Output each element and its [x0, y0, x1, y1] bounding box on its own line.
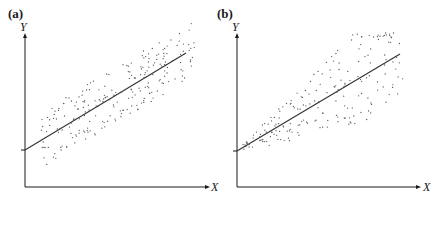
data-point — [248, 146, 249, 147]
data-point — [373, 36, 374, 37]
data-point — [168, 81, 169, 82]
data-point — [127, 109, 128, 110]
data-point — [246, 141, 247, 142]
data-point — [49, 125, 50, 126]
data-point — [170, 39, 171, 40]
data-point — [182, 75, 183, 76]
data-point — [298, 124, 299, 125]
data-point — [391, 37, 392, 38]
data-point — [152, 74, 153, 75]
data-point — [389, 94, 390, 95]
data-point — [270, 117, 271, 118]
data-point — [143, 100, 144, 101]
data-point — [377, 89, 378, 90]
data-point — [278, 108, 279, 109]
data-point — [360, 79, 361, 80]
data-point — [58, 110, 59, 111]
data-point — [326, 92, 327, 93]
data-point — [62, 129, 63, 130]
data-point — [266, 131, 267, 132]
data-point — [326, 62, 327, 63]
data-point — [350, 121, 351, 122]
data-point — [192, 57, 193, 58]
data-point — [349, 117, 350, 118]
data-point — [318, 101, 319, 102]
data-point — [142, 67, 143, 68]
data-point — [82, 90, 83, 91]
data-point — [148, 58, 149, 59]
data-point — [335, 85, 336, 86]
data-point — [73, 119, 74, 120]
data-point — [105, 97, 106, 98]
data-point — [320, 84, 321, 85]
data-point — [291, 100, 292, 101]
data-point — [336, 92, 337, 93]
data-point — [371, 104, 372, 105]
data-point — [90, 82, 91, 83]
data-point — [54, 114, 55, 115]
data-point — [316, 90, 317, 91]
x-axis-label: X — [211, 180, 218, 195]
data-point — [334, 86, 335, 87]
data-point — [377, 36, 378, 37]
data-point — [283, 140, 284, 141]
data-point — [106, 73, 107, 74]
data-point — [344, 83, 345, 84]
data-point — [300, 109, 301, 110]
data-point — [158, 53, 159, 54]
data-point — [154, 62, 155, 63]
data-point — [157, 90, 158, 91]
data-point — [244, 144, 245, 145]
data-point — [78, 133, 79, 134]
data-point — [57, 128, 58, 129]
data-point — [156, 55, 157, 56]
data-point — [144, 74, 145, 75]
data-point — [262, 141, 263, 142]
data-point — [366, 77, 367, 78]
data-point — [287, 131, 288, 132]
data-point — [128, 66, 129, 67]
data-point — [120, 116, 121, 117]
data-point — [262, 124, 263, 125]
data-point — [179, 33, 180, 34]
data-point — [180, 54, 181, 55]
data-point — [42, 147, 43, 148]
data-point — [108, 74, 109, 75]
data-point — [164, 76, 165, 77]
data-point — [61, 145, 62, 146]
data-point — [58, 132, 59, 133]
data-point — [289, 130, 290, 131]
data-point — [98, 89, 99, 90]
data-point — [60, 147, 61, 148]
data-point — [165, 61, 166, 62]
data-point — [65, 97, 66, 98]
data-point — [370, 48, 371, 49]
data-point — [397, 76, 398, 77]
data-point — [335, 53, 336, 54]
data-point — [86, 89, 87, 90]
data-point — [280, 139, 281, 140]
data-point — [260, 139, 261, 140]
data-point — [299, 124, 300, 125]
data-point — [399, 62, 400, 63]
data-point — [71, 123, 72, 124]
data-point — [309, 103, 310, 104]
data-point — [122, 64, 123, 65]
data-point — [402, 78, 403, 79]
data-point — [337, 121, 338, 122]
data-point — [71, 100, 72, 101]
data-point — [351, 39, 352, 40]
data-point — [370, 112, 371, 113]
data-point — [76, 101, 77, 102]
data-point — [76, 135, 77, 136]
data-point — [167, 67, 168, 68]
data-point — [317, 107, 318, 108]
data-point — [166, 45, 167, 46]
data-point — [290, 123, 291, 124]
data-point — [89, 89, 90, 90]
data-point — [277, 139, 278, 140]
data-point — [100, 100, 101, 101]
data-point — [84, 131, 85, 132]
data-point — [338, 89, 339, 90]
data-point — [270, 136, 271, 137]
